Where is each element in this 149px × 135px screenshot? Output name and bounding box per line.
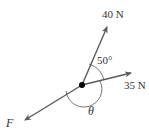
vector-f-arrow xyxy=(25,85,82,120)
force-diagram: 40 N 35 N F 50° θ xyxy=(0,0,149,135)
origin-point xyxy=(79,82,85,88)
fifty-degree-angle-arc xyxy=(89,64,104,80)
fifty-degree-label: 50° xyxy=(97,54,112,66)
vector-f-label: F xyxy=(5,116,14,130)
vector-35n-label: 35 N xyxy=(124,79,146,91)
theta-label: θ xyxy=(88,104,94,118)
vector-40n-label: 40 N xyxy=(102,8,124,20)
